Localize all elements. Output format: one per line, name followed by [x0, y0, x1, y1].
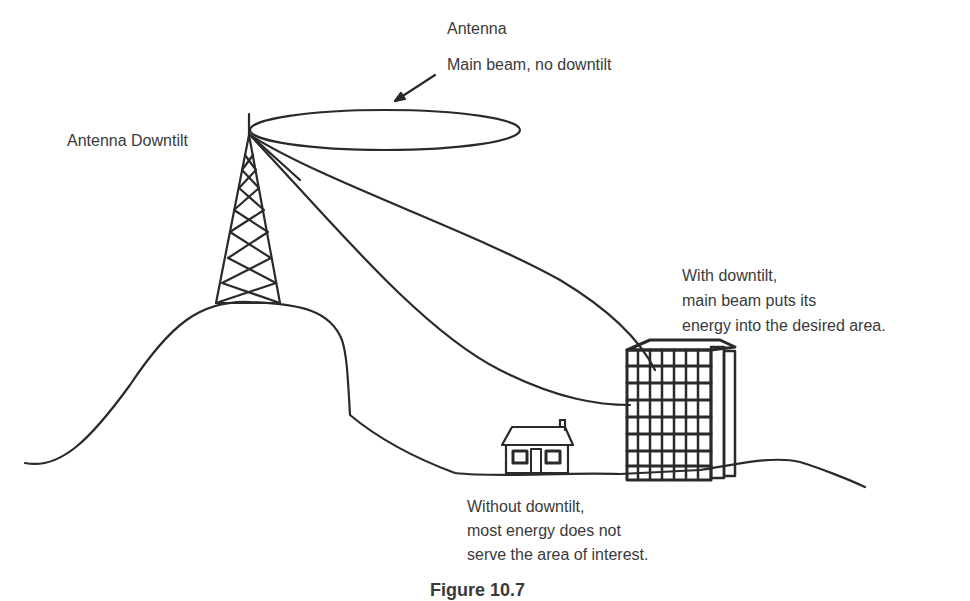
antenna-downtilt-label: Antenna Downtilt [67, 131, 188, 151]
antenna-label: Antenna [447, 19, 507, 39]
without-downtilt-line-1: Without downtilt, [467, 497, 584, 517]
without-downtilt-line-2: most energy does not [467, 521, 621, 541]
without-downtilt-line-3: serve the area of interest. [467, 545, 648, 565]
house-icon [502, 420, 573, 473]
with-downtilt-line-3: energy into the desired area. [682, 316, 886, 336]
lattice-tower-icon [216, 114, 280, 303]
main-beam-with-downtilt [250, 135, 655, 370]
with-downtilt-line-2: main beam puts its [682, 291, 816, 311]
figure-caption: Figure 10.7 [430, 580, 525, 601]
with-downtilt-line-1: With downtilt, [682, 266, 777, 286]
main-beam-no-downtilt [250, 110, 520, 150]
main-beam-no-downtilt-label: Main beam, no downtilt [447, 55, 612, 75]
office-building-icon [627, 340, 735, 480]
